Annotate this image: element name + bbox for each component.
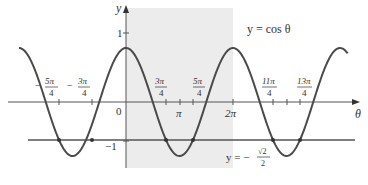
svg-text:4: 4 [159, 88, 164, 98]
x-tick-label-pi: π [176, 107, 182, 119]
svg-text:4: 4 [267, 88, 272, 98]
x-tick-label-neg-3pi-4: − 3π 4 [67, 76, 90, 98]
svg-text:5π: 5π [45, 76, 55, 86]
theta-axis-arrow-icon [352, 99, 360, 105]
svg-text:3π: 3π [77, 76, 88, 86]
cosine-chart: y θ 0 1 −1 π 2π − 5π 4 − 3π 4 3π 4 5π 4 … [0, 0, 368, 185]
svg-text:−: − [67, 80, 73, 91]
svg-text:13π: 13π [297, 76, 311, 86]
svg-text:4: 4 [302, 88, 307, 98]
y-tick-label-one: 1 [117, 27, 123, 39]
origin-label: 0 [116, 105, 122, 117]
svg-text:−: − [35, 80, 41, 91]
x-tick-label-neg-5pi-4: − 5π 4 [35, 76, 58, 98]
svg-text:11π: 11π [262, 76, 275, 86]
x-tick-label-2pi: 2π [225, 107, 237, 119]
svg-text:4: 4 [49, 88, 54, 98]
svg-text:4: 4 [82, 88, 87, 98]
svg-text:y = −: y = − [226, 151, 249, 163]
x-tick-label-11pi-4: 11π 4 [262, 76, 277, 98]
y-axis-label: y [115, 1, 122, 15]
shaded-region [126, 8, 233, 168]
svg-text:√2: √2 [258, 147, 266, 156]
x-tick-label-13pi-4: 13π 4 [297, 76, 312, 98]
svg-text:3π: 3π [154, 76, 165, 86]
svg-text:5π: 5π [193, 76, 203, 86]
theta-axis-label: θ [355, 107, 361, 121]
y-tick-label-minus-one: −1 [105, 140, 117, 152]
cos-curve-label: y = cos θ [247, 22, 291, 36]
svg-text:2: 2 [261, 159, 265, 168]
svg-text:4: 4 [197, 88, 202, 98]
